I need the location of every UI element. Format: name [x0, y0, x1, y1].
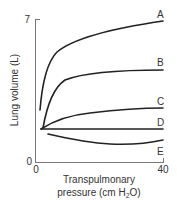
y-tick-0: 0 [26, 156, 32, 167]
y-axis-label: Lung volume (L) [9, 54, 20, 126]
x-axis-label-line1: Transpulmonary [63, 174, 135, 185]
x-tick-40: 40 [157, 164, 169, 175]
x-tick-0: 0 [33, 164, 39, 175]
series-labels: A B C D E [157, 9, 164, 157]
curves [40, 21, 163, 144]
curve-e [48, 134, 163, 144]
y-tick-7: 7 [24, 14, 30, 25]
series-label-a: A [157, 9, 164, 20]
curve-a [40, 21, 163, 110]
curve-c [41, 108, 163, 129]
lung-volume-chart: 7 0 0 40 Lung volume (L) Transpulmonary … [0, 0, 177, 200]
series-label-b: B [157, 57, 164, 68]
series-label-c: C [157, 96, 164, 107]
series-label-d: D [157, 117, 164, 128]
series-label-e: E [157, 146, 164, 157]
x-axis-label-line2: pressure (cm H2O) [57, 187, 140, 199]
